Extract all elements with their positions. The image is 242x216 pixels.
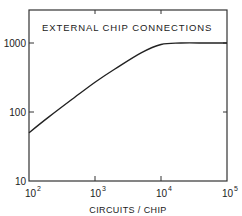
y-tick-label: 1000	[4, 38, 27, 49]
x-axis-label: CIRCUITS / CHIP	[89, 205, 167, 215]
svg-text:4: 4	[168, 185, 172, 192]
x-tick-label: 10 5	[222, 185, 238, 199]
x-tick-label: 10 2	[25, 185, 41, 199]
x-tick-label: 10 3	[90, 185, 106, 199]
data-line	[29, 43, 227, 133]
svg-text:10: 10	[156, 188, 168, 199]
svg-text:10: 10	[90, 188, 102, 199]
svg-text:2: 2	[37, 185, 41, 192]
y-tick-label: 100	[9, 107, 26, 118]
svg-text:10: 10	[25, 188, 37, 199]
svg-text:3: 3	[102, 185, 106, 192]
chart-title: EXTERNAL CHIP CONNECTIONS	[42, 22, 212, 33]
plot-frame	[29, 10, 227, 181]
y-tick-label: 10	[15, 176, 27, 187]
svg-text:10: 10	[222, 188, 234, 199]
svg-text:5: 5	[234, 185, 238, 192]
chart: 1000 100 10 10 2 10 3 10 4 10 5 EXTERNAL…	[0, 0, 242, 216]
x-tick-label: 10 4	[156, 185, 172, 199]
